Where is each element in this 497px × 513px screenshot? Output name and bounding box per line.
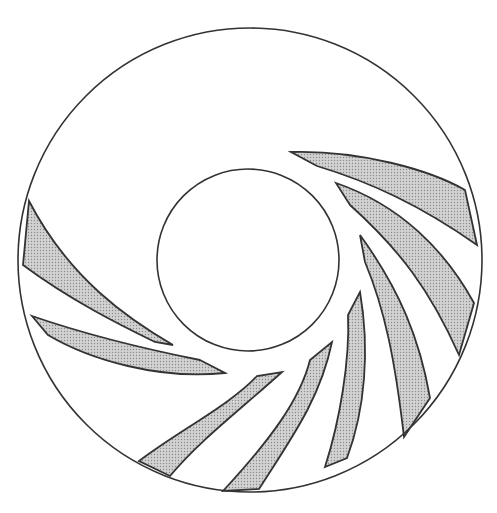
vane-blade [223,342,332,491]
impeller-svg [0,0,497,513]
vane-group [23,152,477,491]
impeller-diagram [0,0,497,513]
hub-circle [157,169,339,351]
vane-blade [325,292,365,467]
